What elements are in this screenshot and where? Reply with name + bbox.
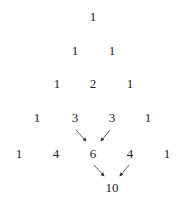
arrow-icon	[94, 165, 104, 176]
arrows	[0, 0, 179, 202]
arrow-icon	[120, 165, 129, 176]
arrow-icon	[101, 130, 110, 141]
arrow-icon	[76, 130, 86, 141]
